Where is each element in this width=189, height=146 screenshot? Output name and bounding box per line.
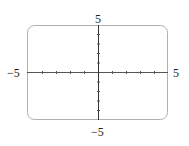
y-min-label: −5: [91, 126, 104, 138]
y-max-label: 5: [95, 13, 101, 25]
x-max-label: 5: [173, 67, 179, 79]
x-min-label: −5: [7, 67, 20, 79]
